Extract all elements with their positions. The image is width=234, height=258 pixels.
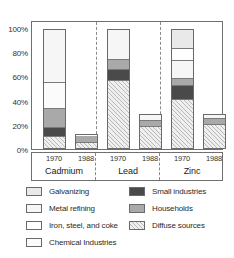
- bar-segment-galvanizing: [172, 30, 193, 49]
- legend-item-iron[interactable]: Iron, steel, and coke: [26, 221, 118, 230]
- legend-swatch-households: [129, 204, 145, 213]
- bar-segment-small: [172, 86, 193, 100]
- bar-segment-diffuse: [44, 137, 65, 148]
- x-axis-labels-box: 197019881970198819701988CadmiumLeadZinc: [31, 152, 223, 181]
- legend-swatch-chemical: [26, 238, 42, 247]
- bar-segment-households: [140, 121, 161, 128]
- y-axis: 0%20%40%60%80%100%: [0, 21, 31, 150]
- bar-zinc-1988[interactable]: [203, 114, 226, 149]
- legend-item-diffuse[interactable]: Diffuse sources: [129, 221, 205, 230]
- y-axis-tick-100: 100%: [8, 25, 28, 34]
- y-axis-tick-0: 0%: [17, 146, 28, 155]
- bar-segment-households: [76, 136, 97, 143]
- legend-swatch-metal: [26, 204, 42, 213]
- chart-legend: GalvanizingMetal refiningIron, steel, an…: [0, 185, 234, 255]
- y-axis-tick-80: 80%: [13, 49, 28, 58]
- bar-segment-small: [108, 70, 129, 82]
- bar-segment-diffuse: [108, 81, 129, 148]
- bar-lead-1970[interactable]: [107, 29, 130, 149]
- x-axis-year-lead-1988: 1988: [133, 154, 167, 163]
- legend-item-small[interactable]: Small industries: [129, 187, 206, 196]
- legend-label-chemical: Chemical Industries: [49, 238, 116, 247]
- legend-label-households: Households: [152, 204, 193, 213]
- bar-segment-households: [44, 109, 65, 128]
- bar-lead-1988[interactable]: [139, 114, 162, 149]
- bar-segment-metal: [172, 61, 193, 79]
- bar-segment-households: [172, 79, 193, 86]
- bar-segment-diffuse: [140, 127, 161, 148]
- legend-item-chemical[interactable]: Chemical Industries: [26, 238, 116, 247]
- legend-item-households[interactable]: Households: [129, 204, 193, 213]
- bar-segment-metal: [44, 30, 65, 82]
- plot-area: [31, 21, 223, 150]
- bar-segment-diffuse: [76, 143, 97, 148]
- legend-item-galvanizing[interactable]: Galvanizing: [26, 187, 89, 196]
- bar-zinc-1970[interactable]: [171, 29, 194, 149]
- y-axis-tick-40: 40%: [13, 97, 28, 106]
- y-axis-tick-60: 60%: [13, 73, 28, 82]
- bar-cadmium-1970[interactable]: [43, 29, 66, 149]
- x-axis-year-zinc-1988: 1988: [197, 154, 231, 163]
- x-axis-year-cadmium-1988: 1988: [69, 154, 103, 163]
- x-axis-year-zinc-1970: 1970: [165, 154, 199, 163]
- legend-swatch-small: [129, 187, 145, 196]
- legend-label-metal: Metal refining: [49, 204, 95, 213]
- bar-cadmium-1988[interactable]: [75, 134, 98, 149]
- legend-swatch-iron: [26, 221, 42, 230]
- x-axis-group-zinc: Zinc: [158, 166, 226, 176]
- legend-item-metal[interactable]: Metal refining: [26, 204, 95, 213]
- legend-label-galvanizing: Galvanizing: [49, 187, 89, 196]
- bar-segment-households: [108, 60, 129, 70]
- legend-label-iron: Iron, steel, and coke: [49, 221, 118, 230]
- y-axis-tick-20: 20%: [13, 121, 28, 130]
- bar-segment-small: [44, 128, 65, 138]
- bar-segment-metal: [108, 30, 129, 60]
- x-axis-group-cadmium: Cadmium: [30, 166, 98, 176]
- legend-label-small: Small industries: [152, 187, 206, 196]
- x-axis-year-cadmium-1970: 1970: [37, 154, 71, 163]
- group-separator-1: [96, 22, 97, 149]
- bar-segment-chemical: [44, 83, 65, 109]
- legend-label-diffuse: Diffuse sources: [152, 221, 205, 230]
- chart-container: 0%20%40%60%80%100% 197019881970198819701…: [0, 0, 234, 258]
- legend-swatch-galvanizing: [26, 187, 42, 196]
- bar-segment-iron: [172, 49, 193, 61]
- legend-swatch-diffuse: [129, 221, 145, 230]
- bar-segment-diffuse: [204, 125, 225, 148]
- x-axis-group-lead: Lead: [94, 166, 162, 176]
- x-axis-year-lead-1970: 1970: [101, 154, 135, 163]
- bar-segment-diffuse: [172, 100, 193, 148]
